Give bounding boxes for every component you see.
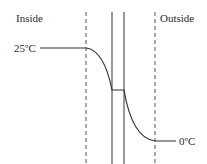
heat-transfer-diagram: Inside Outside 25ºC 0ºC: [0, 0, 207, 164]
outside-label: Outside: [160, 12, 194, 24]
diagram-graphic: [0, 0, 207, 164]
outside-temperature-label: 0ºC: [179, 135, 195, 147]
inside-label: Inside: [16, 12, 43, 24]
inside-temperature-label: 25ºC: [14, 42, 36, 54]
temperature-profile-curve: [40, 48, 176, 141]
